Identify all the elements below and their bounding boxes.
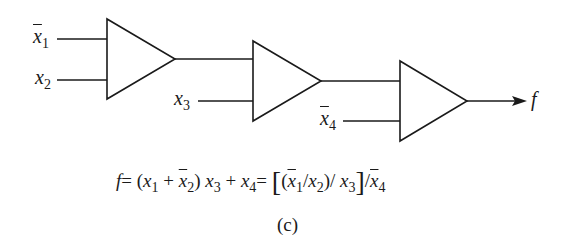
eq-plus: + (159, 170, 179, 191)
label-x4bar-sub: 4 (329, 118, 336, 133)
label-x2-base: x (35, 66, 44, 88)
figure-caption: (c) (277, 214, 298, 236)
eq-paren: ) (194, 170, 200, 191)
label-x1bar-base: x (33, 25, 42, 47)
gate-chain-diagram (0, 0, 563, 249)
eq-bracket: ] (355, 166, 364, 197)
eq-sub: 1 (296, 180, 303, 195)
eq-sub: 1 (152, 180, 159, 195)
eq-plus: + (221, 170, 241, 191)
eq-sub: 3 (214, 180, 221, 195)
eq-x3: x (205, 170, 213, 191)
label-output-f: f (531, 89, 537, 109)
label-x3: x3 (174, 88, 190, 113)
eq-x2bar: x (179, 170, 187, 191)
gate-2-triangle (253, 41, 321, 121)
label-x2-sub: 2 (44, 77, 51, 92)
gate-1-triangle (107, 19, 175, 99)
label-x4bar: x4 (320, 108, 336, 133)
label-x3-sub: 3 (183, 98, 190, 113)
eq-bracket: [ (272, 166, 281, 197)
label-x4bar-base: x (320, 107, 329, 129)
gate-3-triangle (400, 61, 467, 141)
eq-sub: 4 (378, 180, 385, 195)
eq-equals-2: = (256, 170, 267, 191)
eq-x2: x (308, 170, 316, 191)
eq-sub: 2 (317, 180, 324, 195)
label-x2: x2 (35, 67, 51, 92)
equation: f= (x1 + x2) x3 + x4= [(x1/x2)/ x3]/x4 (116, 168, 385, 196)
label-x1bar: x1 (33, 26, 49, 51)
eq-slash: / (330, 170, 340, 191)
eq-x1bar: x (287, 170, 295, 191)
label-x3-base: x (174, 87, 183, 109)
eq-equals-1: = (121, 170, 132, 191)
label-x1bar-sub: 1 (42, 36, 49, 51)
eq-x1: x (143, 170, 151, 191)
